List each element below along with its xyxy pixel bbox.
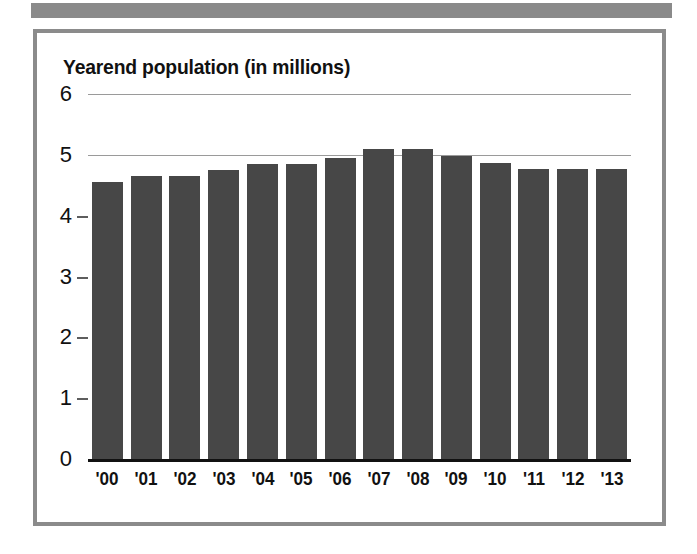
x-axis-label: '12 bbox=[561, 468, 584, 490]
bar[interactable] bbox=[480, 163, 511, 459]
y-axis-label-5: 5 bbox=[60, 144, 72, 166]
bar[interactable] bbox=[131, 176, 162, 459]
x-axis-label: '07 bbox=[367, 468, 390, 490]
bar-slot: '05 bbox=[282, 94, 321, 459]
x-axis-label: '02 bbox=[173, 468, 196, 490]
bar[interactable] bbox=[208, 170, 239, 459]
bar[interactable] bbox=[286, 164, 317, 459]
x-axis-label: '01 bbox=[135, 468, 158, 490]
x-axis-label: '09 bbox=[445, 468, 468, 490]
bar[interactable] bbox=[441, 156, 472, 459]
y-axis-label-0: 0 bbox=[60, 448, 72, 470]
bar-series: '00'01'02'03'04'05'06'07'08'09'10'11'12'… bbox=[88, 94, 631, 459]
x-axis-label: '05 bbox=[290, 468, 313, 490]
y-axis-label-2: 2 bbox=[60, 326, 72, 348]
bar[interactable] bbox=[596, 169, 627, 459]
bar[interactable] bbox=[518, 169, 549, 459]
bar-slot: '09 bbox=[437, 94, 476, 459]
x-axis-label: '00 bbox=[96, 468, 119, 490]
x-axis-label: '13 bbox=[600, 468, 623, 490]
x-axis-label: '11 bbox=[523, 468, 545, 490]
bar-slot: '07 bbox=[359, 94, 398, 459]
bar-slot: '00 bbox=[88, 94, 127, 459]
y-tickmark-4 bbox=[77, 216, 88, 218]
x-axis-label: '10 bbox=[484, 468, 507, 490]
bar-slot: '02 bbox=[166, 94, 205, 459]
bar-slot: '12 bbox=[553, 94, 592, 459]
bar-slot: '10 bbox=[476, 94, 515, 459]
y-axis-label-3: 3 bbox=[60, 266, 72, 288]
bar-slot: '03 bbox=[204, 94, 243, 459]
bar-slot: '13 bbox=[592, 94, 631, 459]
x-axis-label: '08 bbox=[406, 468, 429, 490]
bar[interactable] bbox=[169, 176, 200, 459]
bar[interactable] bbox=[247, 164, 278, 459]
bar-slot: '11 bbox=[515, 94, 554, 459]
axis-baseline bbox=[88, 459, 631, 462]
bar[interactable] bbox=[325, 158, 356, 459]
y-tickmark-3 bbox=[77, 277, 88, 279]
y-tickmark-2 bbox=[77, 337, 88, 339]
y-tickmark-1 bbox=[77, 398, 88, 400]
x-axis-label: '03 bbox=[212, 468, 235, 490]
bar[interactable] bbox=[557, 169, 588, 459]
bar-slot: '06 bbox=[321, 94, 360, 459]
chart-figure-frame: Yearend population (in millions) 0123456… bbox=[33, 29, 666, 526]
y-axis-label-4: 4 bbox=[60, 205, 72, 227]
chart-title: Yearend population (in millions) bbox=[63, 55, 350, 79]
bar[interactable] bbox=[363, 149, 394, 459]
bar-slot: '04 bbox=[243, 94, 282, 459]
top-decorative-band bbox=[31, 3, 672, 18]
bar-slot: '01 bbox=[127, 94, 166, 459]
y-axis-label-6: 6 bbox=[60, 83, 72, 105]
bar[interactable] bbox=[92, 182, 123, 459]
x-axis-label: '06 bbox=[329, 468, 352, 490]
y-axis-label-1: 1 bbox=[60, 387, 72, 409]
bar-slot: '08 bbox=[398, 94, 437, 459]
bar[interactable] bbox=[402, 149, 433, 459]
plot-area: 0123456 '00'01'02'03'04'05'06'07'08'09'1… bbox=[88, 94, 631, 459]
x-axis-label: '04 bbox=[251, 468, 274, 490]
